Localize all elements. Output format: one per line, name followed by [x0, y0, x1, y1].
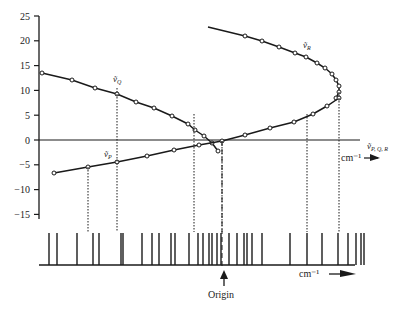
data-point — [325, 104, 329, 108]
data-point — [337, 84, 341, 88]
data-point — [268, 126, 272, 130]
data-point — [243, 133, 247, 137]
upper-arrow-icon — [364, 154, 380, 161]
y-tick-label: 20 — [20, 35, 30, 46]
data-point — [216, 149, 220, 153]
data-point — [170, 114, 174, 118]
data-point — [197, 143, 201, 147]
data-point — [292, 120, 296, 124]
lower-arrow-icon — [329, 270, 356, 277]
data-point — [52, 171, 56, 175]
origin-arrow-icon — [220, 270, 228, 286]
data-point — [304, 55, 308, 59]
data-point — [293, 51, 297, 55]
y-tick-label: 5 — [25, 110, 30, 121]
data-point — [323, 66, 327, 70]
branch-p-label: ṽP — [104, 149, 112, 160]
spectrum-lines — [49, 233, 364, 265]
data-point — [311, 112, 315, 116]
y-axis-ticks: 2520151050−5−10−15 — [14, 11, 39, 220]
branch-curves — [40, 27, 341, 175]
y-tick-label: 15 — [20, 60, 30, 71]
data-point — [186, 122, 190, 126]
branch-curve — [54, 98, 339, 173]
data-point — [152, 106, 156, 110]
branch-r-label: ṽR — [303, 40, 311, 51]
data-point — [277, 45, 281, 49]
y-tick-label: −15 — [14, 209, 30, 220]
data-point — [40, 71, 44, 75]
y-tick-label: −10 — [14, 184, 30, 195]
origin-label: Origin — [208, 289, 234, 300]
fortrat-diagram: 2520151050−5−10−15 ṽR ṽQ ṽP ṽP, Q, R cm⁻… — [0, 0, 402, 311]
upper-unit-label: cm⁻¹ — [341, 152, 361, 163]
data-point — [172, 148, 176, 152]
data-point — [330, 72, 334, 76]
axis-pqr-label: ṽP, Q, R — [367, 141, 388, 152]
data-point — [70, 78, 74, 82]
data-point — [243, 34, 247, 38]
data-point — [334, 78, 338, 82]
data-point — [134, 100, 138, 104]
data-point — [145, 154, 149, 158]
y-tick-label: 0 — [25, 135, 30, 146]
data-point — [202, 134, 206, 138]
lower-unit-label: cm⁻¹ — [299, 268, 319, 279]
data-point — [315, 61, 319, 65]
y-tick-label: 10 — [20, 85, 30, 96]
branch-curve — [42, 73, 218, 151]
data-point — [260, 39, 264, 43]
branch-q-label: ṽQ — [113, 74, 122, 85]
data-point — [93, 86, 97, 90]
y-tick-label: 25 — [20, 11, 30, 22]
y-tick-label: −5 — [19, 159, 30, 170]
